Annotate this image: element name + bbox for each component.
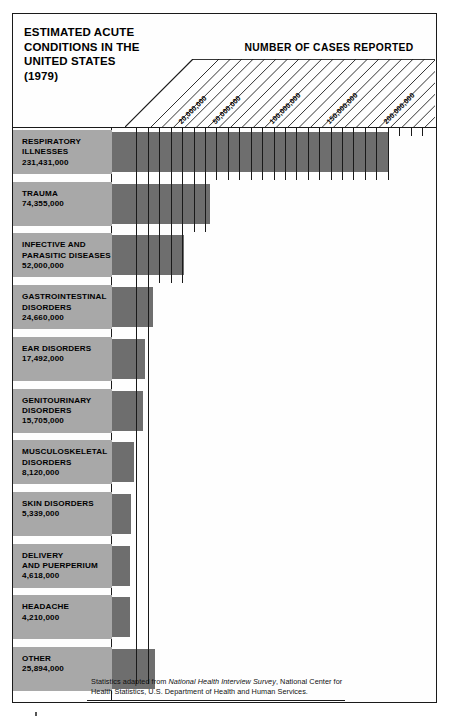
category-name-line: DISORDERS [22, 303, 112, 313]
category-name-line: DISORDERS [22, 406, 112, 416]
gridline-17 [319, 128, 320, 180]
gridline-25 [411, 128, 412, 136]
category-name-line: AND PUERPERIUM [22, 561, 112, 571]
category-label-3: INFECTIVE ANDPARASITIC DISEASES52,000,00… [13, 233, 112, 277]
chart-title-line-2: CONDITIONS IN THE [24, 40, 209, 55]
category-value: 25,894,000 [22, 664, 112, 674]
footnote-source-title: National Health Interview Survey [168, 677, 275, 686]
category-name-line: GENITOURINARY [22, 396, 112, 406]
category-label-8: SKIN DISORDERS5,339,000 [13, 492, 112, 536]
gridline-26 [422, 128, 423, 136]
bar-8 [112, 494, 131, 534]
chart-header: ESTIMATED ACUTE CONDITIONS IN THE UNITED… [13, 14, 436, 127]
category-value: 52,000,000 [22, 261, 112, 271]
bar-6 [112, 391, 143, 431]
bar-10 [112, 597, 130, 637]
x-axis-heading: NUMBER OF CASES REPORTED [223, 42, 435, 53]
category-value: 8,120,000 [22, 468, 112, 478]
category-name-line: DELIVERY [22, 551, 112, 561]
gridline-7 [205, 128, 206, 232]
category-value: 231,431,000 [22, 158, 112, 168]
gridline-11 [251, 128, 252, 180]
category-label-10: HEADACHE4,210,000 [13, 595, 112, 639]
plot-area [112, 128, 436, 701]
category-label-7: MUSCULOSKELETALDISORDERS8,120,000 [13, 440, 112, 484]
category-name-line: DISORDERS [22, 458, 112, 468]
category-label-4: GASTROINTESTINALDISORDERS24,660,000 [13, 285, 112, 329]
gridline-10 [239, 128, 240, 180]
gridline-2 [148, 128, 149, 684]
category-label-5: EAR DISORDERS17,492,000 [13, 337, 112, 381]
category-name-line: ILLNESSES [22, 147, 112, 157]
category-name-line: INFECTIVE AND [22, 240, 112, 250]
gridline-8 [216, 128, 217, 180]
bar-2 [112, 184, 210, 224]
category-name-line: OTHER [22, 654, 112, 664]
gridline-18 [331, 128, 332, 180]
gridline-19 [342, 128, 343, 180]
chart-frame: ESTIMATED ACUTE CONDITIONS IN THE UNITED… [12, 13, 437, 703]
gridline-23 [388, 128, 389, 180]
gridline-4 [171, 128, 172, 283]
gridline-9 [228, 128, 229, 180]
category-name-line: PARASITIC DISEASES [22, 251, 112, 261]
gridline-6 [194, 128, 195, 232]
category-name-line: MUSCULOSKELETAL [22, 447, 112, 457]
gridline-16 [308, 128, 309, 180]
bar-9 [112, 546, 130, 586]
footnote-divider [87, 700, 345, 701]
gridline-1 [136, 128, 137, 684]
gridline-22 [376, 128, 377, 180]
category-name-line: EAR DISORDERS [22, 344, 112, 354]
footnote-prefix: Statistics adapted from [91, 677, 168, 686]
axis-tick-ribbon: 20,000,00050,000,000100,000,000150,000,0… [125, 59, 435, 127]
gridline-21 [365, 128, 366, 180]
category-value: 17,492,000 [22, 354, 112, 364]
bar-5 [112, 339, 145, 379]
gridline-24 [399, 128, 400, 136]
category-value: 4,210,000 [22, 613, 112, 623]
category-value: 24,660,000 [22, 313, 112, 323]
source-footnote: Statistics adapted from National Health … [91, 677, 343, 697]
category-name-line: TRAUMA [22, 189, 112, 199]
category-name-line: GASTROINTESTINAL [22, 292, 112, 302]
category-label-9: DELIVERYAND PUERPERIUM4,618,000 [13, 544, 112, 588]
gridline-12 [262, 128, 263, 180]
chart-title-line-1: ESTIMATED ACUTE [24, 25, 209, 40]
gridline-5 [182, 128, 183, 283]
bar-7 [112, 442, 134, 482]
category-name-line: HEADACHE [22, 602, 112, 612]
category-label-column: RESPIRATORYILLNESSES231,431,000TRAUMA74,… [13, 128, 112, 701]
gridline-3 [159, 128, 160, 283]
category-value: 4,618,000 [22, 571, 112, 581]
gridline-20 [353, 128, 354, 180]
category-value: 74,355,000 [22, 199, 112, 209]
category-name-line: RESPIRATORY [22, 137, 112, 147]
chart-body: RESPIRATORYILLNESSES231,431,000TRAUMA74,… [13, 127, 436, 701]
category-label-2: TRAUMA74,355,000 [13, 182, 112, 226]
category-label-6: GENITOURINARYDISORDERS15,705,000 [13, 389, 112, 433]
category-label-1: RESPIRATORYILLNESSES231,431,000 [13, 130, 112, 174]
category-value: 15,705,000 [22, 416, 112, 426]
acute-conditions-chart: ESTIMATED ACUTE CONDITIONS IN THE UNITED… [0, 0, 456, 723]
gridline-14 [285, 128, 286, 180]
gridline-13 [274, 128, 275, 180]
gridline-15 [296, 128, 297, 180]
scan-artifact [35, 712, 37, 716]
category-value: 5,339,000 [22, 509, 112, 519]
category-name-line: SKIN DISORDERS [22, 499, 112, 509]
